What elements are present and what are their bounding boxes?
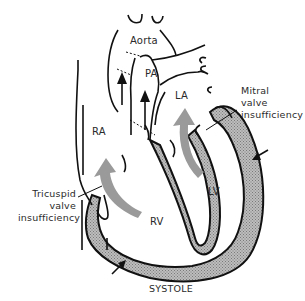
label-aorta: Aorta [130,35,158,47]
tricuspid-annotation: Tricuspid valve insufficiency [18,188,76,224]
mitral-annotation: Mitral valve insufficiency [241,85,303,121]
label-lv: LV [208,186,220,198]
label-rv: RV [150,216,164,228]
diagram-title: SYSTOLE [149,283,193,295]
arrow-up-icon [140,90,150,102]
label-pa: PA [145,68,158,80]
label-ra: RA [92,126,106,138]
arrow-up-icon [117,72,127,84]
ejection-arrows [117,72,150,130]
tricuspid-regurgitant-arrow-icon [94,158,142,218]
heart-systole-diagram: Aorta PA LA RA RV LV Mitral valve insuff… [0,0,305,301]
label-la: LA [175,90,188,102]
regurgitant-flow-arrows [94,108,204,218]
